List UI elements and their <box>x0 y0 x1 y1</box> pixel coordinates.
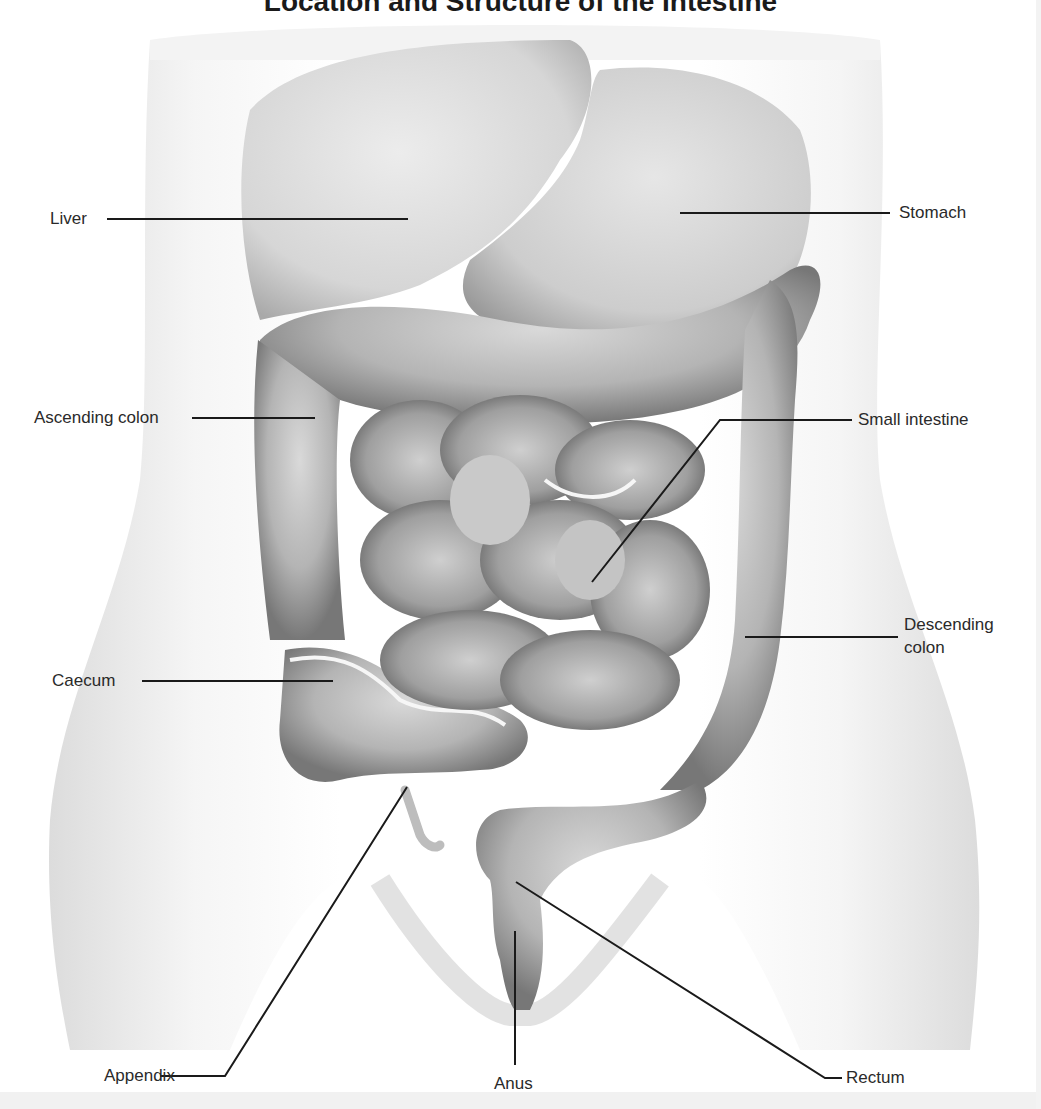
small-intestine-organ <box>350 395 710 730</box>
label-stomach: Stomach <box>899 203 966 223</box>
label-rectum: Rectum <box>846 1068 905 1088</box>
label-ascending-colon: Ascending colon <box>34 408 159 428</box>
appendix-organ <box>405 790 440 847</box>
label-liver: Liver <box>50 209 87 229</box>
label-descending-colon-line2: colon <box>904 638 945 658</box>
label-small-intestine: Small intestine <box>858 410 969 430</box>
label-caecum: Caecum <box>52 671 115 691</box>
bottom-margin-band <box>0 1092 1041 1109</box>
intestine-illustration <box>0 0 1041 1109</box>
label-appendix: Appendix <box>104 1066 175 1086</box>
label-anus: Anus <box>494 1074 533 1094</box>
right-margin-band <box>1036 0 1041 1109</box>
label-descending-colon-line1: Descending <box>904 615 994 635</box>
